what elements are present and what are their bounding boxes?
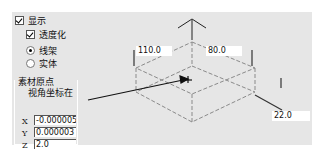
solid-radio[interactable]: 实体 [26,57,57,70]
transparent-label: 透度化 [39,28,66,41]
checkbox-checked-icon[interactable] [15,16,24,25]
radio-unselected-icon[interactable] [26,59,35,68]
show-checkbox[interactable]: 显示 [15,14,46,27]
height-dimension-label[interactable]: 22.0 [272,111,310,121]
x-coordinate-input[interactable]: -0.000005 [34,115,76,125]
view-coordinate-label: 视角坐标在 [28,86,73,99]
show-label: 显示 [28,14,46,27]
checkbox-checked-icon[interactable] [26,30,35,39]
y-coordinate-input[interactable]: 0.000003 [34,127,76,137]
y-axis-label: Y [22,129,27,138]
wireframe-radio[interactable]: 线架 [26,44,57,57]
wireframe-label: 线架 [39,44,57,57]
width-dimension-label[interactable]: 110.0 [136,46,172,56]
z-coordinate-input[interactable]: 2.0 [34,139,76,149]
x-axis-label: X [22,117,28,126]
transparent-checkbox[interactable]: 透度化 [26,28,66,41]
solid-label: 实体 [39,57,57,70]
z-axis-label: Z [22,141,28,150]
radio-selected-icon[interactable] [26,46,35,55]
depth-dimension-label[interactable]: 80.0 [206,46,242,56]
